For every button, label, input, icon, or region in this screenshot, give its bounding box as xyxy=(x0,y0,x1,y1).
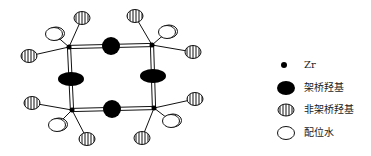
terminal-hydroxyl-icon xyxy=(79,133,95,146)
coordinated-water-icon xyxy=(49,119,66,132)
zr-atom-icon xyxy=(152,106,157,111)
legend-label-coordinated-water: 配位水 xyxy=(304,127,334,139)
legend-bridging-hydroxyl-icon xyxy=(277,81,295,95)
legend-label-zr: Zr xyxy=(304,59,316,71)
zr-atom-icon xyxy=(70,108,75,113)
legend-zr-dot-icon xyxy=(281,62,287,68)
bridging-hydroxyl-icon xyxy=(103,100,121,118)
coordinated-water-icon xyxy=(46,28,63,41)
terminal-hydroxyl-icon xyxy=(187,93,203,106)
coordinated-water-icon xyxy=(159,26,176,39)
legend-label-bridging-hydroxyl: 架桥羟基 xyxy=(304,82,344,94)
terminal-hydroxyl-icon xyxy=(185,46,201,59)
legend-icons xyxy=(277,62,295,140)
legend-label-terminal-hydroxyl: 非架桥羟基 xyxy=(304,104,354,116)
terminal-hydroxyl-icon xyxy=(127,10,143,23)
coordinated-water-icon xyxy=(163,115,180,128)
bridging-hydroxyl-icon xyxy=(140,69,166,83)
atoms-layer xyxy=(21,10,203,146)
terminal-hydroxyl-icon xyxy=(24,97,40,110)
bridging-hydroxyl-icon xyxy=(58,72,84,86)
legend-terminal-hydroxyl-icon xyxy=(278,104,294,116)
terminal-hydroxyl-icon xyxy=(74,12,90,25)
bridging-hydroxyl-icon xyxy=(102,37,120,55)
terminal-hydroxyl-icon xyxy=(21,50,37,63)
legend-water-icon xyxy=(278,127,295,140)
zr-atom-icon xyxy=(150,43,155,48)
zr-atom-icon xyxy=(67,45,72,50)
terminal-hydroxyl-icon xyxy=(134,132,150,145)
